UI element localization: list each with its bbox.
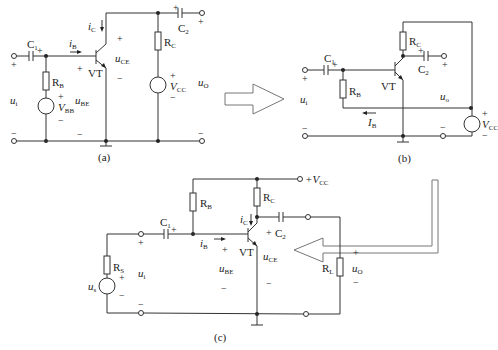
svg-text:+: +	[170, 70, 176, 81]
caption-a: (a)	[98, 151, 111, 164]
label-vcc-supply: +VCC	[305, 173, 329, 187]
svg-text:+: +	[138, 237, 144, 248]
voltage-source-vbb	[38, 98, 54, 114]
label-ic: iC	[88, 20, 96, 34]
resistor-rl	[337, 258, 343, 276]
arrow-a-to-b	[225, 84, 284, 114]
svg-text:VT: VT	[381, 80, 396, 92]
svg-text:+: +	[198, 16, 204, 27]
label-vt: VT	[88, 67, 103, 79]
label-ib: iB	[69, 37, 77, 51]
svg-text:+: +	[266, 227, 272, 238]
label-uce: uCE	[115, 52, 129, 66]
svg-text:ui: ui	[138, 267, 146, 281]
svg-text:−: −	[221, 283, 227, 294]
svg-text:uo: uo	[440, 90, 450, 104]
svg-text:−: −	[138, 299, 144, 310]
svg-text:−: −	[11, 128, 17, 139]
label-uo: uO	[198, 76, 209, 90]
resistor-rc	[400, 32, 406, 50]
svg-text:−: −	[302, 123, 308, 134]
svg-text:RC: RC	[263, 191, 275, 205]
svg-text:−: −	[58, 115, 64, 126]
label-rb: RB	[52, 76, 64, 90]
svg-text:IB: IB	[367, 116, 377, 130]
svg-text:us: us	[88, 280, 97, 294]
svg-text:−: −	[266, 278, 272, 289]
svg-text:C2: C2	[275, 227, 286, 241]
voltage-source-vcc	[464, 116, 480, 132]
svg-text:−: −	[77, 129, 83, 140]
svg-text:+: +	[77, 63, 83, 74]
svg-text:+: +	[119, 272, 125, 283]
capacitor-c1	[324, 65, 328, 75]
input-terminal-bottom	[12, 139, 17, 144]
resistor-rb	[340, 80, 346, 98]
svg-text:ui: ui	[300, 93, 308, 107]
panel-b: C1 + C2 + RB RC VT VCC + − IB ui + − uo …	[300, 22, 498, 165]
capacitor-c2	[424, 51, 428, 61]
svg-text:VT: VT	[239, 246, 254, 258]
svg-text:−: −	[482, 130, 488, 141]
svg-text:+: +	[482, 108, 488, 119]
svg-text:uCE: uCE	[263, 250, 277, 264]
svg-text:+: +	[11, 59, 17, 70]
svg-text:RB: RB	[349, 85, 361, 99]
label-vbb: VBB	[58, 101, 74, 115]
resistor-rc	[155, 32, 161, 50]
voltage-source-vcc	[150, 77, 166, 93]
label-rc: RC	[164, 36, 176, 50]
svg-text:uBE: uBE	[219, 262, 233, 276]
svg-text:−: −	[353, 277, 359, 288]
svg-text:−: −	[117, 73, 123, 84]
caption-b: (b)	[398, 152, 411, 165]
svg-text:+: +	[171, 224, 177, 235]
svg-text:C1: C1	[160, 216, 171, 230]
svg-text:−: −	[170, 92, 176, 103]
svg-text:+: +	[222, 244, 228, 255]
svg-text:iC: iC	[240, 213, 248, 227]
voltage-source-us	[99, 278, 115, 294]
svg-text:+: +	[442, 59, 448, 70]
capacitor-c1	[29, 51, 33, 61]
svg-text:−: −	[119, 290, 125, 301]
input-terminal-top	[12, 54, 17, 59]
svg-text:iB: iB	[200, 237, 208, 251]
arrow-b-to-c	[294, 180, 438, 262]
svg-text:−: −	[198, 128, 204, 139]
panel-a: C1 + C2 + RB RC VBB + − VCC + − VT iC iB…	[10, 2, 209, 164]
svg-text:RL: RL	[322, 262, 334, 276]
svg-text:+: +	[353, 247, 359, 258]
capacitor-c1	[164, 229, 168, 239]
svg-text:uO: uO	[352, 262, 363, 276]
svg-text:C2: C2	[418, 63, 429, 77]
svg-text:+: +	[173, 2, 179, 13]
svg-text:RB: RB	[200, 197, 212, 211]
svg-text:+: +	[58, 91, 64, 102]
svg-text:+: +	[302, 73, 308, 84]
caption-c: (c)	[214, 331, 227, 344]
transistor-vt	[395, 58, 403, 136]
svg-text:−: −	[440, 122, 446, 133]
label-ui: ui	[10, 94, 18, 108]
label-ube: uBE	[75, 94, 89, 108]
svg-text:+: +	[332, 59, 338, 70]
resistor-rs	[104, 256, 110, 274]
svg-text:+: +	[117, 33, 123, 44]
transistor-vt	[248, 217, 257, 314]
resistor-rb	[190, 193, 196, 211]
resistor-rb	[43, 72, 49, 90]
svg-text:+: +	[37, 45, 43, 56]
circuit-figure: C1 + C2 + RB RC VBB + − VCC + − VT iC iB…	[0, 0, 498, 350]
label-c2: C2	[178, 22, 189, 36]
capacitor-c2	[279, 212, 283, 222]
svg-text:RC: RC	[409, 35, 421, 49]
resistor-rc	[254, 188, 260, 206]
